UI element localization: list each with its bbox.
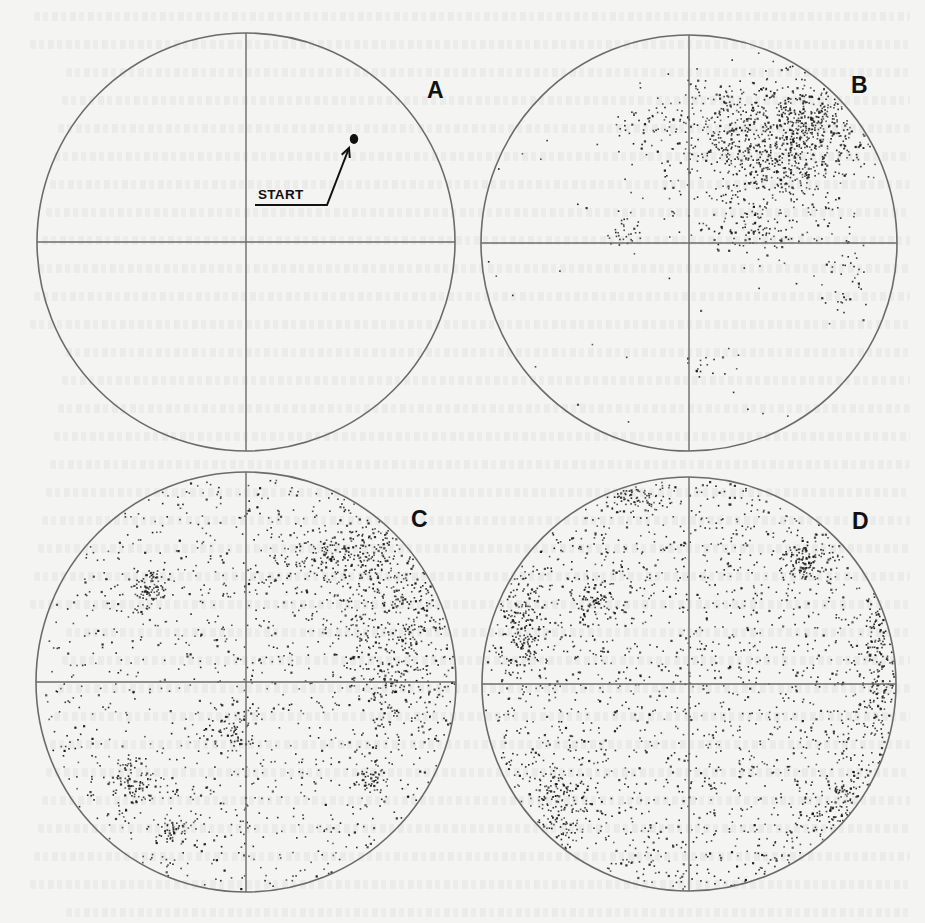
scatter-points (45, 480, 455, 891)
scatter-points (485, 481, 895, 890)
start-label: START (258, 188, 304, 202)
panel-b (481, 35, 897, 451)
panel-label-a: A (427, 79, 444, 102)
panel-d (482, 477, 896, 891)
panel-label-c: C (411, 508, 428, 531)
scatter-points (488, 52, 876, 422)
panel-a (37, 33, 455, 451)
panel-label-b: B (851, 74, 868, 97)
panel-label-d: D (852, 510, 869, 533)
start-point-dot (350, 134, 358, 144)
panel-c (36, 472, 456, 892)
